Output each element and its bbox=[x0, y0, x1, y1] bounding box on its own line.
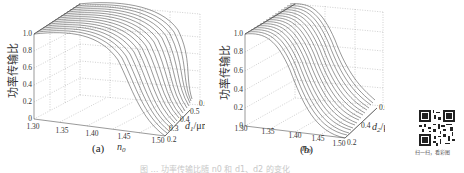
y-axis-label: d2/μm bbox=[372, 121, 385, 134]
surface-plot-a: 0 0.2 0.4 0.6 0.8 1.0 1.30 1.35 1.40 1.4… bbox=[0, 0, 205, 160]
x-tick: 1.45 bbox=[311, 134, 324, 143]
panel-label-a: (a) bbox=[92, 142, 104, 154]
y-tick: 0.6 bbox=[379, 103, 385, 112]
x-tick: 1.45 bbox=[117, 132, 130, 141]
z-tick: 0.6 bbox=[234, 66, 244, 75]
z-tick: 0.4 bbox=[234, 85, 244, 94]
surface-mesh-a bbox=[34, 3, 192, 136]
z-tick: 0.6 bbox=[23, 63, 33, 72]
x-tick: 1.35 bbox=[261, 127, 274, 136]
x-tick: 1.30 bbox=[26, 122, 39, 131]
y-tick: 0.5 bbox=[190, 107, 200, 116]
qr-code[interactable] bbox=[419, 110, 455, 146]
x-tick: 1.50 bbox=[151, 136, 164, 145]
surface-mesh-b bbox=[245, 4, 377, 138]
z-tick: 0.2 bbox=[23, 97, 33, 106]
x-tick: 1.50 bbox=[332, 139, 345, 148]
z-tick: 0.4 bbox=[23, 80, 33, 89]
z-axis-label: 功率传输比 bbox=[218, 45, 231, 100]
z-tick: 0.8 bbox=[23, 46, 33, 55]
z-tick: 1.0 bbox=[23, 29, 33, 38]
surface-plot-b: 0 0.2 0.4 0.6 0.8 1.0 1.30 1.35 1.40 1.4… bbox=[205, 0, 385, 160]
x-tick: 1.40 bbox=[85, 129, 98, 138]
qr-caption: 扫一扫，看彩图 bbox=[415, 148, 450, 155]
x-axis-label: n0 bbox=[117, 141, 126, 154]
x-tick: 1.30 bbox=[234, 124, 247, 133]
figure-caption: 图 … 功率传输比随 n0 和 d1、d2 的变化 bbox=[140, 163, 290, 173]
x-tick: 1.35 bbox=[55, 126, 68, 135]
chart-panel-a: 0 0.2 0.4 0.6 0.8 1.0 1.30 1.35 1.40 1.4… bbox=[0, 0, 205, 160]
y-tick: 0.2 bbox=[347, 138, 357, 147]
z-tick: 0.2 bbox=[234, 103, 244, 112]
y-tick: 0.2 bbox=[167, 135, 177, 144]
z-axis-label: 功率传输比 bbox=[6, 43, 19, 98]
chart-panel-b: 0 0.2 0.4 0.6 0.8 1.0 1.30 1.35 1.40 1.4… bbox=[205, 0, 385, 160]
y-tick: 0.4 bbox=[361, 121, 371, 130]
y-tick: 0.3 bbox=[169, 124, 179, 133]
z-tick: 0.8 bbox=[234, 47, 244, 56]
z-tick: 1.0 bbox=[234, 29, 244, 38]
panel-label-b: (b) bbox=[300, 143, 313, 155]
y-axis-label: d1/μm bbox=[185, 120, 205, 133]
x-tick: 1.40 bbox=[288, 131, 301, 140]
